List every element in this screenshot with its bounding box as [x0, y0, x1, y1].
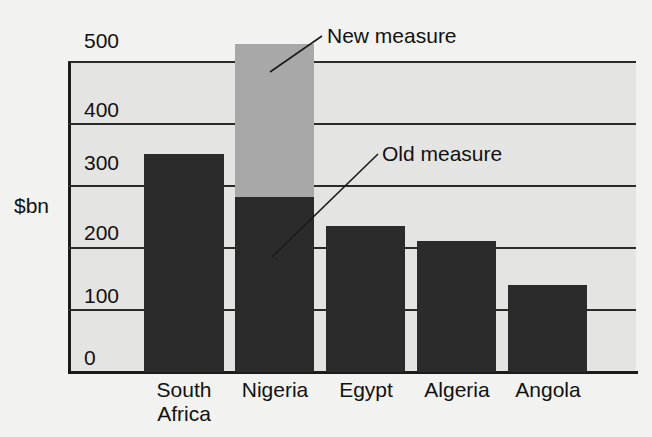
bar-egypt-old — [326, 226, 405, 372]
ytick-label-100: 100 — [84, 285, 119, 306]
bar-nigeria-old — [235, 197, 314, 372]
category-label-egypt: Egypt — [316, 378, 416, 402]
ytick-label-0: 0 — [84, 347, 96, 368]
category-label-angola: Angola — [498, 378, 598, 402]
ytick-label-300: 300 — [84, 152, 119, 173]
ytick-label-500: 500 — [84, 30, 119, 51]
bar-angola-old — [508, 285, 587, 372]
y-axis-title: $bn — [14, 195, 49, 216]
gridline-400 — [68, 123, 636, 125]
category-label-algeria: Algeria — [407, 378, 507, 402]
chart-screenshot: 500 400 300 200 100 0 $bn South Africa N… — [0, 0, 652, 437]
annotation-old-measure: Old measure — [382, 143, 502, 164]
bar-south-africa-old — [144, 154, 224, 372]
annotation-new-measure: New measure — [327, 25, 457, 46]
category-label-south-africa: South Africa — [134, 378, 234, 426]
ytick-label-400: 400 — [84, 99, 119, 120]
category-label-nigeria: Nigeria — [225, 378, 325, 402]
gridline-500 — [68, 61, 636, 63]
bar-algeria-old — [417, 241, 496, 372]
ytick-label-200: 200 — [84, 222, 119, 243]
